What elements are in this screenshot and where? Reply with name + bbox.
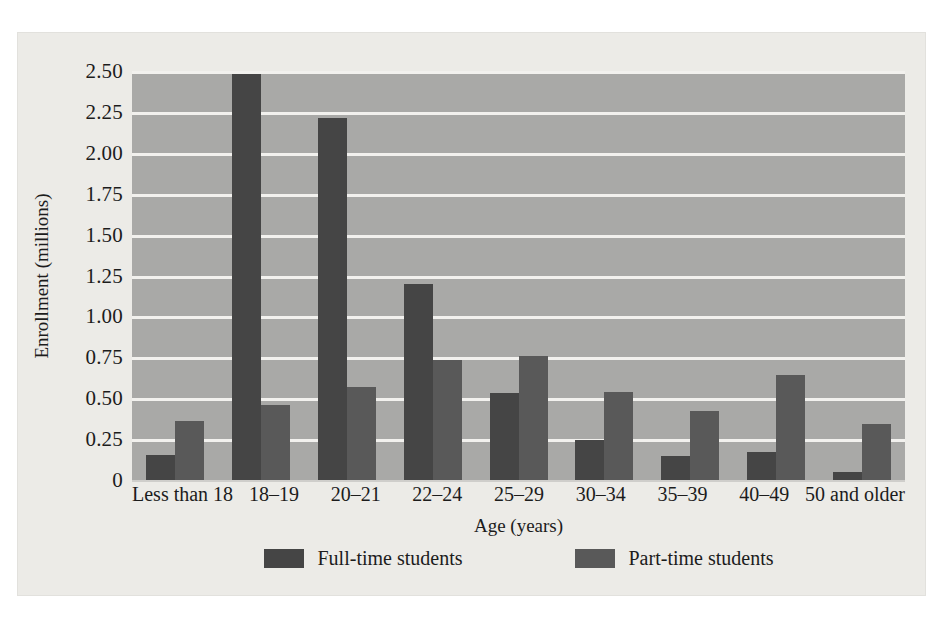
plot-region: 00.250.500.751.001.251.501.752.002.252.5…: [132, 71, 905, 480]
bar: [519, 356, 548, 480]
bar-group: [733, 71, 819, 480]
y-axis-tick-label: 0.25: [85, 427, 123, 452]
bar-group: [304, 71, 390, 480]
bar: [175, 421, 204, 480]
bar: [661, 456, 690, 480]
bar: [347, 387, 376, 480]
bar: [575, 440, 604, 480]
bar: [404, 284, 433, 480]
bar: [747, 452, 776, 480]
bar-group: [819, 71, 905, 480]
legend-label: Full-time students: [318, 547, 463, 570]
bar-series-layer: [132, 71, 905, 480]
x-axis-tick-label: 22–24: [397, 483, 479, 506]
bar-group: [390, 71, 476, 480]
bar: [261, 405, 290, 480]
bar: [433, 360, 462, 480]
y-axis-tick-label: 2.50: [85, 59, 123, 84]
bar: [232, 74, 261, 480]
legend-label: Part-time students: [629, 547, 774, 570]
y-axis-tick-label: 2.00: [85, 140, 123, 165]
y-axis-tick-label: 2.25: [85, 99, 123, 124]
bar: [146, 455, 175, 480]
bar: [604, 392, 633, 480]
y-axis-tick-label: 0.75: [85, 345, 123, 370]
bar-group: [647, 71, 733, 480]
y-axis-tick-label: 1.00: [85, 304, 123, 329]
bar-group: [476, 71, 562, 480]
bar: [690, 411, 719, 480]
legend-swatch: [264, 549, 304, 568]
x-axis-tick-label: 30–34: [560, 483, 642, 506]
bar: [833, 472, 862, 480]
bar: [490, 393, 519, 480]
bar-group: [218, 71, 304, 480]
x-axis-tick-label: 50 and older: [805, 483, 905, 506]
y-axis-tick-label: 0.50: [85, 386, 123, 411]
x-axis-tick-label: 25–29: [478, 483, 560, 506]
y-axis-tick-label: 0: [112, 468, 123, 493]
x-axis-tick-label: 35–39: [642, 483, 724, 506]
y-axis-title: Enrollment (millions): [31, 193, 53, 358]
x-axis-title: Age (years): [132, 515, 905, 537]
legend-item: Part-time students: [575, 547, 774, 570]
x-axis-ticks: Less than 1818–1920–2122–2425–2930–3435–…: [132, 483, 905, 506]
bar: [318, 118, 347, 480]
y-axis-tick-label: 1.50: [85, 222, 123, 247]
chart-figure: 00.250.500.751.001.251.501.752.002.252.5…: [18, 33, 925, 595]
legend-swatch: [575, 549, 615, 568]
bar: [776, 375, 805, 480]
chart-legend: Full-time studentsPart-time students: [132, 547, 905, 570]
bar-group: [132, 71, 218, 480]
y-axis-tick-label: 1.75: [85, 181, 123, 206]
x-axis-baseline: [132, 480, 905, 482]
x-axis-tick-label: 18–19: [233, 483, 315, 506]
x-axis-tick-label: 40–49: [723, 483, 805, 506]
x-axis-tick-label: Less than 18: [132, 483, 233, 506]
legend-item: Full-time students: [264, 547, 463, 570]
x-axis-tick-label: 20–21: [315, 483, 397, 506]
bar: [862, 424, 891, 480]
bar-group: [561, 71, 647, 480]
y-axis-tick-label: 1.25: [85, 263, 123, 288]
